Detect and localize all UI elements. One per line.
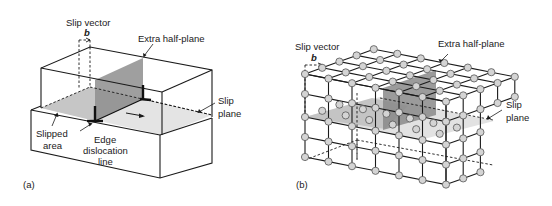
slip-plane-label-line1: Slip bbox=[506, 99, 522, 110]
slip-plane-label-line1: Slip bbox=[218, 95, 234, 106]
panel-b: Slip vector b Extra half-plane Slip plan… bbox=[295, 38, 529, 190]
edge-dislocation-label-line1: Edge bbox=[94, 134, 116, 145]
dislocation-figure: Slip vector b Extra half-plane Slip plan… bbox=[0, 0, 552, 206]
panel-a-tag: (a) bbox=[23, 179, 35, 190]
burgers-vector-label: b bbox=[311, 52, 317, 63]
panel-a: Slip vector b Extra half-plane Slip plan… bbox=[23, 17, 241, 190]
slip-vector-marker bbox=[79, 38, 90, 89]
slip-vector-label: Slip vector bbox=[295, 41, 339, 52]
slip-plane-label-line2: plane bbox=[506, 112, 529, 123]
edge-dislocation-label-line3: line bbox=[98, 156, 113, 167]
edge-dislocation-label-line2: dislocation bbox=[83, 145, 128, 156]
slipped-area-label-line2: area bbox=[43, 140, 63, 151]
slipped-area-label-line1: Slipped bbox=[36, 128, 68, 139]
burgers-vector-label: b bbox=[84, 27, 90, 38]
extra-half-plane-label: Extra half-plane bbox=[138, 33, 205, 44]
panel-b-tag: (b) bbox=[296, 179, 308, 190]
extra-half-plane-label: Extra half-plane bbox=[438, 38, 505, 49]
slip-plane-label-line2: plane bbox=[218, 108, 241, 119]
